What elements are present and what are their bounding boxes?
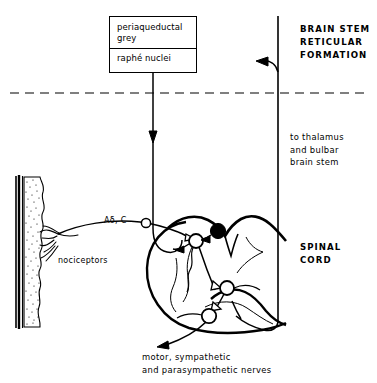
- supraspinal-nuclei-box: periaqueductal grey raphé nuclei: [109, 16, 197, 73]
- region-label-brainstem: BRAIN STEM RETICULAR FORMATION: [300, 23, 370, 62]
- ascending-arrowhead: [256, 57, 268, 66]
- box-divider: [110, 48, 196, 49]
- dorsal-root-ganglion: [141, 218, 150, 227]
- projection-neuron-soma: [189, 234, 203, 248]
- pain-pathway-diagram: periaqueductal grey raphé nuclei BRAIN S…: [0, 0, 377, 383]
- pathway-label-efferent: motor, sympathetic and parasympathetic n…: [142, 351, 271, 376]
- nociceptors-label: nociceptors: [58, 256, 108, 267]
- box-label-grey: grey: [117, 33, 136, 44]
- fiber-type-label: Aδ, C: [104, 216, 127, 227]
- inhibitory-interneuron: [201, 223, 226, 243]
- motor-neuron-soma: [202, 309, 216, 323]
- region-label-spinal-cord: SPINAL CORD: [300, 241, 341, 267]
- descending-modulatory-fiber: [149, 73, 182, 252]
- ventral-interneuron-soma: [220, 281, 234, 295]
- skin-layer: [16, 175, 44, 329]
- projection-neuron: [173, 234, 221, 292]
- ascending-tract: [236, 16, 278, 331]
- box-label-periaqueductal: periaqueductal: [117, 22, 182, 33]
- descending-arrowhead: [149, 131, 157, 143]
- pathway-label-ascending: to thalamus and bulbar brain stem: [290, 131, 344, 169]
- box-label-raphe-nuclei: raphé nuclei: [117, 53, 171, 64]
- efferent-arrowhead: [157, 341, 169, 349]
- inhibitory-neuron-soma: [210, 223, 225, 238]
